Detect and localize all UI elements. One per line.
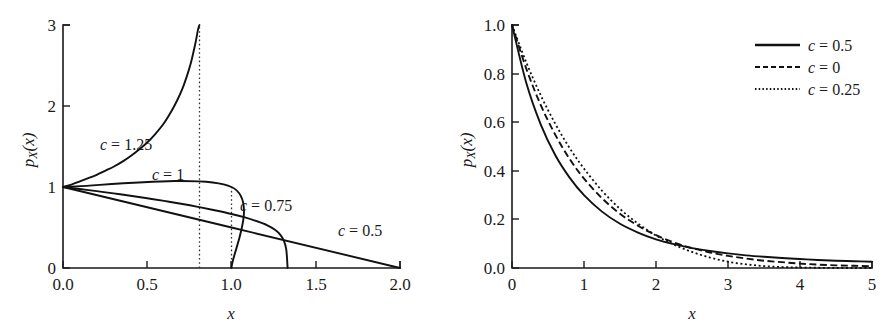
figure-container: 3 2 1 0 0.0 0.5 1.0 1.5 2.0 x pX(x) (0, 0, 884, 329)
legend-label-c0: c = 0 (808, 59, 840, 76)
left-xtick-label-1: 0.5 (136, 275, 157, 294)
left-yaxis-title: pX(x) (19, 132, 40, 168)
legend: c = 0.5 c = 0 c = 0.25 (755, 37, 860, 98)
right-xtick-label-0: 0 (508, 275, 517, 294)
right-ytick-label-0p0: 0.0 (484, 259, 505, 278)
left-xtick-label-3: 1.5 (305, 275, 326, 294)
left-xtick-label-0: 0.0 (52, 275, 73, 294)
chart-panel-left: 3 2 1 0 0.0 0.5 1.0 1.5 2.0 x pX(x) (0, 0, 442, 329)
legend-label-c05: c = 0.5 (808, 37, 852, 54)
left-label-c05: c = 0.5 (338, 222, 382, 239)
left-yaxis-title-arg: (x) (19, 132, 38, 151)
right-ytick-label-0p8: 0.8 (484, 65, 505, 84)
left-label-c125: c = 1.25 (100, 136, 152, 153)
right-xtick-label-3: 3 (724, 275, 733, 294)
svg-text:pX(x): pX(x) (19, 132, 40, 168)
right-xtick-label-2: 2 (652, 275, 661, 294)
legend-label-c025: c = 0.25 (808, 81, 860, 98)
right-xaxis-title: x (687, 304, 696, 323)
left-ytick-label-1: 1 (48, 178, 57, 197)
right-xtick-label-5: 5 (868, 275, 877, 294)
left-yaxis-title-p: p (19, 159, 38, 169)
left-ytick-label-3: 3 (48, 16, 57, 35)
right-ytick-label-0p4: 0.4 (484, 162, 506, 181)
right-xtick-label-1: 1 (580, 275, 589, 294)
right-yaxis-title-arg: (x) (457, 132, 476, 151)
left-ytick-label-2: 2 (48, 97, 57, 116)
left-xtick-label-2: 1.0 (220, 275, 241, 294)
left-xtick-label-4: 2.0 (389, 275, 410, 294)
left-plot-svg: 3 2 1 0 0.0 0.5 1.0 1.5 2.0 x pX(x) (0, 0, 442, 329)
left-label-c075: c = 0.75 (240, 197, 292, 214)
left-curve-c125 (63, 25, 199, 187)
right-ytick-label-0p6: 0.6 (484, 113, 505, 132)
left-xaxis-title: x (226, 304, 235, 323)
right-ytick-label-1p0: 1.0 (484, 16, 505, 35)
right-yaxis-title: pX(x) (457, 132, 478, 168)
right-xtick-label-4: 4 (796, 275, 805, 294)
chart-panel-right: 1.0 0.8 0.6 0.4 0.2 0.0 0 1 2 3 4 5 x pX… (442, 0, 884, 329)
svg-text:pX(x): pX(x) (457, 132, 478, 168)
right-ytick-label-0p2: 0.2 (484, 210, 505, 229)
right-yaxis-title-p: p (457, 159, 476, 169)
left-label-c1: c = 1 (152, 166, 184, 183)
right-plot-svg: 1.0 0.8 0.6 0.4 0.2 0.0 0 1 2 3 4 5 x pX… (442, 0, 884, 329)
